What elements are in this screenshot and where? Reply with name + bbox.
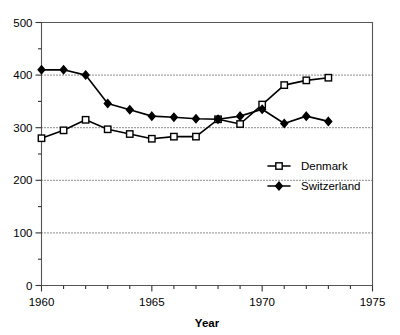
y-tick-label-0: 0 bbox=[26, 280, 32, 292]
datapoint-switzerland-1964 bbox=[126, 106, 133, 114]
datapoint-denmark-1963 bbox=[105, 126, 111, 132]
datapoint-denmark-1971 bbox=[281, 82, 287, 88]
datapoint-denmark-1966 bbox=[171, 133, 177, 139]
datapoint-denmark-1967 bbox=[193, 133, 199, 139]
x-tick-label-1965: 1965 bbox=[139, 296, 165, 308]
datapoint-denmark-1969 bbox=[237, 121, 243, 127]
datapoint-switzerland-1967 bbox=[192, 115, 199, 123]
x-tick-label-1975: 1975 bbox=[360, 296, 386, 308]
datapoint-switzerland-1971 bbox=[281, 119, 288, 127]
datapoint-switzerland-1969 bbox=[237, 112, 244, 120]
datapoint-denmark-1973 bbox=[325, 75, 331, 81]
datapoint-switzerland-1966 bbox=[170, 113, 177, 121]
datapoint-denmark-1961 bbox=[60, 127, 66, 133]
datapoint-denmark-1960 bbox=[38, 135, 44, 141]
datapoint-denmark-1965 bbox=[149, 136, 155, 142]
legend-marker-denmark bbox=[276, 163, 282, 169]
y-tick-label-500: 500 bbox=[13, 17, 32, 29]
y-tick-label-400: 400 bbox=[13, 69, 32, 81]
datapoint-denmark-1962 bbox=[82, 117, 88, 123]
datapoint-denmark-1964 bbox=[127, 131, 133, 137]
y-tick-label-300: 300 bbox=[13, 122, 32, 134]
chart-container: 01002003004005001960196519701975YearDenm… bbox=[0, 0, 400, 335]
legend-label-switzerland: Switzerland bbox=[301, 180, 360, 192]
legend-label-denmark: Denmark bbox=[301, 160, 348, 172]
x-tick-label-1970: 1970 bbox=[249, 296, 275, 308]
legend-marker-switzerland bbox=[276, 182, 283, 190]
line-chart: 01002003004005001960196519701975YearDenm… bbox=[0, 0, 400, 335]
datapoint-denmark-1972 bbox=[303, 77, 309, 83]
y-tick-label-100: 100 bbox=[13, 227, 32, 239]
datapoint-switzerland-1965 bbox=[148, 112, 155, 120]
datapoint-switzerland-1961 bbox=[60, 66, 67, 74]
datapoint-switzerland-1972 bbox=[303, 112, 310, 120]
x-axis-title: Year bbox=[195, 317, 220, 329]
x-tick-label-1960: 1960 bbox=[29, 296, 55, 308]
datapoint-switzerland-1973 bbox=[325, 117, 332, 125]
datapoint-switzerland-1960 bbox=[38, 66, 45, 74]
y-tick-label-200: 200 bbox=[13, 174, 32, 186]
plot-frame bbox=[42, 23, 373, 286]
